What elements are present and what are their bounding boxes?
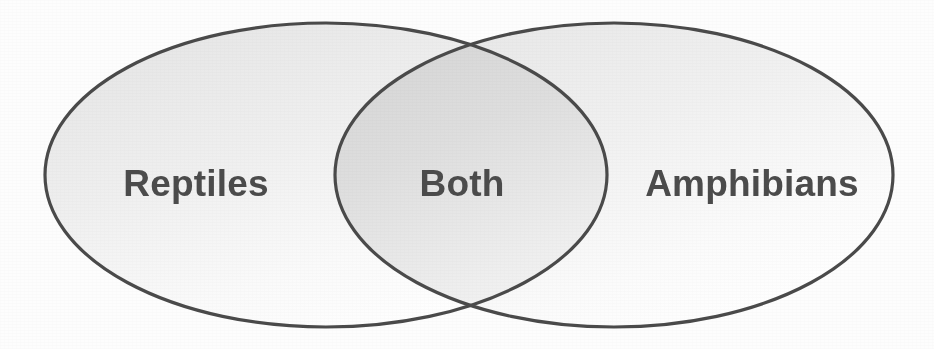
venn-diagram-canvas: Reptiles Both Amphibians: [0, 0, 934, 349]
right-set-label: Amphibians: [645, 163, 859, 205]
intersection-label: Both: [419, 163, 504, 205]
left-set-label: Reptiles: [123, 163, 269, 205]
